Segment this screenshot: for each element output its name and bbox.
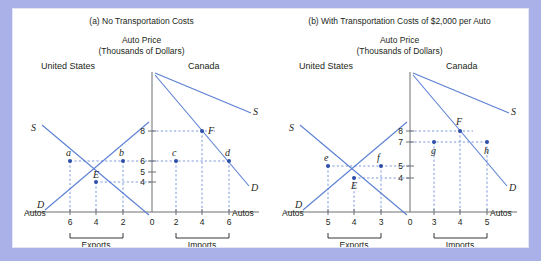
panel-a-point-F xyxy=(200,129,204,133)
panel-a-us-demand-curve xyxy=(45,122,149,210)
panel-a-ylabel-5: 5 xyxy=(140,167,145,177)
panel-a-imports-label: Imports xyxy=(188,240,216,247)
panel-b-canada-supply-curve xyxy=(413,73,509,113)
panel-b-us-demand-label: D xyxy=(294,199,303,210)
figure-card: (a) No Transportation Costs Auto Price (… xyxy=(13,9,528,247)
panel-a-xlabel-right-2: 2 xyxy=(174,217,179,227)
panel-a-point-b xyxy=(121,159,125,163)
panel-b-xlabel-right-3: 3 xyxy=(432,217,437,227)
panel-a-point-d-label: d xyxy=(225,147,231,158)
panel-a-ylabel-4: 4 xyxy=(140,177,145,187)
panel-a-point-b-label: b xyxy=(119,147,124,158)
panel-a-point-E-label: E xyxy=(92,169,99,180)
panel-b-canada-demand-label: D xyxy=(508,182,517,193)
panel-a-xlabel-right-4: 4 xyxy=(200,217,205,227)
panel-a-xaxis-name-right: Autos xyxy=(232,208,254,218)
panel-b-point-f-label: f xyxy=(377,152,381,163)
panel-b-xlabel-left-5: 5 xyxy=(326,217,331,227)
panel-b-ylabel-4: 4 xyxy=(398,173,403,183)
panel-a-xlabel-right-6: 6 xyxy=(227,217,232,227)
panel-a-origin-label: 0 xyxy=(150,217,155,227)
panel-a-exports-brace xyxy=(70,233,123,238)
panel-b-us-supply-curve xyxy=(300,125,407,215)
panel-b-point-h xyxy=(485,140,489,144)
panel-b-xlabel-left-4: 4 xyxy=(352,217,357,227)
panel-b-xlabel-right-5: 5 xyxy=(485,217,490,227)
panel-a-exports-label: Exports xyxy=(82,240,111,247)
panel-a-point-a-label: a xyxy=(66,147,71,158)
panel-a-canada-supply-curve xyxy=(155,73,251,113)
panel-b-point-g-label: g xyxy=(431,145,436,156)
panel-b-point-h-label: h xyxy=(484,145,489,156)
panel-b: (b) With Transportation Costs of $2,000 … xyxy=(271,9,528,247)
panel-a-point-c xyxy=(174,159,178,163)
panel-b-point-e-label: e xyxy=(324,152,329,163)
panel-a-us-demand-label: D xyxy=(36,199,45,210)
panel-b-ylabel-5: 5 xyxy=(398,161,403,171)
panel-b-imports-brace xyxy=(434,233,487,238)
panel-b-point-E-label: E xyxy=(350,180,357,191)
panel-b-plot: 8 7 5 4 5 4 3 0 3 4 5 Autos Autos S D S … xyxy=(271,9,528,247)
panel-b-ylabel-8: 8 xyxy=(398,126,403,136)
panel-b-xlabel-left-3: 3 xyxy=(379,217,384,227)
panel-a-point-F-label: F xyxy=(207,125,215,136)
panel-b-us-supply-label: S xyxy=(289,122,294,133)
panel-b-exports-label: Exports xyxy=(340,240,369,247)
panel-b-point-e xyxy=(326,164,330,168)
panel-b-point-F xyxy=(458,129,462,133)
panel-b-origin-label: 0 xyxy=(408,217,413,227)
panel-b-ylabel-7: 7 xyxy=(398,137,403,147)
panel-b-point-F-label: F xyxy=(455,116,463,127)
panel-a-plot: 8 6 5 4 6 4 2 0 2 4 6 Autos Autos S D S … xyxy=(13,9,270,247)
panel-a-ylabel-8: 8 xyxy=(140,126,145,136)
panel-a-point-c-label: c xyxy=(172,147,177,158)
panel-a-canada-supply-label: S xyxy=(253,106,258,117)
panel-a-point-E xyxy=(94,180,98,184)
panel-b-imports-label: Imports xyxy=(446,240,474,247)
panel-b-canada-supply-label: S xyxy=(511,106,516,117)
panel-a-xlabel-left-6: 6 xyxy=(68,217,73,227)
panel-b-exports-brace xyxy=(328,233,381,238)
panel-a: (a) No Transportation Costs Auto Price (… xyxy=(13,9,270,247)
panel-a-xlabel-left-2: 2 xyxy=(121,217,126,227)
panel-a-ylabel-6: 6 xyxy=(140,156,145,166)
panel-b-xaxis-name-right: Autos xyxy=(490,208,512,218)
panel-a-point-a xyxy=(68,159,72,163)
panel-a-point-d xyxy=(227,159,231,163)
panel-a-xlabel-left-4: 4 xyxy=(94,217,99,227)
panel-b-point-g xyxy=(432,140,436,144)
panel-a-canada-demand-label: D xyxy=(250,182,259,193)
panel-b-point-f xyxy=(379,164,383,168)
panel-b-xlabel-right-4: 4 xyxy=(458,217,463,227)
panel-a-us-supply-label: S xyxy=(31,122,36,133)
panel-a-imports-brace xyxy=(176,233,229,238)
